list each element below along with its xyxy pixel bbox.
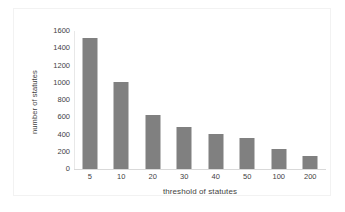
bar-slot (74, 31, 106, 169)
y-axis-tick-labels: 16001400120010008006004002000 (44, 23, 70, 175)
bar-slot (295, 31, 327, 169)
bar-5[interactable] (82, 38, 97, 169)
bar-20[interactable] (145, 115, 160, 169)
bar-40[interactable] (208, 134, 223, 169)
bar-slot (137, 31, 169, 169)
x-tick-label: 30 (180, 172, 188, 182)
x-axis-tick-labels: 51020304050100200 (74, 172, 326, 184)
bar-slot (232, 31, 264, 169)
bar-30[interactable] (177, 127, 192, 169)
x-tick-label: 10 (117, 172, 125, 182)
x-tick-label: 200 (304, 172, 317, 182)
chart-frame: number of statutes 160014001200100080060… (13, 8, 331, 196)
bar-slot (106, 31, 138, 169)
y-tick-label: 1200 (44, 62, 70, 70)
x-tick-label: 20 (149, 172, 157, 182)
x-axis-title: threshold of statutes (74, 187, 326, 196)
y-tick-label: 0 (44, 165, 70, 173)
x-tick-label: 5 (88, 172, 92, 182)
x-tick-label: 40 (212, 172, 220, 182)
bar-200[interactable] (303, 156, 318, 169)
y-tick-label: 200 (44, 148, 70, 156)
y-tick-label: 600 (44, 113, 70, 121)
y-tick-label: 1400 (44, 44, 70, 52)
bar-50[interactable] (240, 138, 255, 169)
y-tick-label: 1000 (44, 79, 70, 87)
bar-slot (200, 31, 232, 169)
bar-slot (263, 31, 295, 169)
bar-10[interactable] (114, 82, 129, 169)
bar-slot (169, 31, 201, 169)
x-axis-line (74, 169, 326, 170)
y-tick-label: 800 (44, 96, 70, 104)
plot-area (74, 31, 326, 169)
x-tick-label: 50 (243, 172, 251, 182)
y-tick-label: 1600 (44, 27, 70, 35)
bar-100[interactable] (271, 149, 286, 169)
x-tick-label: 100 (272, 172, 285, 182)
y-tick-label: 400 (44, 131, 70, 139)
